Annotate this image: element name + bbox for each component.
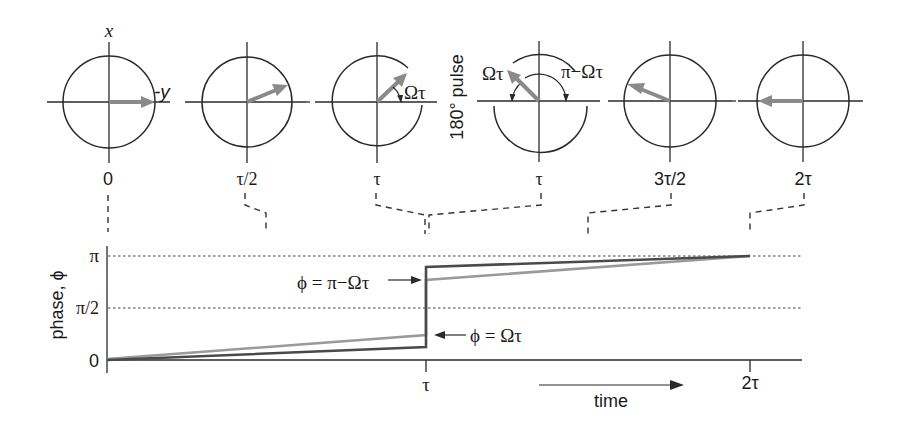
angle-label-pi-minus-omega-tau: π−Ωτ	[561, 61, 603, 82]
annotation-upper: ϕ = π−Ωτ	[297, 272, 370, 293]
angle-label-omega-tau: Ωτ	[404, 82, 426, 103]
snapshot-two-tau: 2τ	[738, 41, 863, 189]
snapshot-tau-half: τ/2	[185, 42, 306, 189]
time-label-tau-1: τ	[373, 169, 380, 189]
spin-echo-figure: x -y 0 τ/2 Ωτ τ 180° pulse	[0, 0, 903, 433]
xlabel: time	[594, 391, 628, 411]
phase-plot: π π/2 0 phase, ϕ τ 2τ time ϕ = π−Ωτ ϕ = …	[47, 245, 802, 411]
time-label-0: 0	[103, 169, 113, 189]
snapshot-tau-after: Ωτ π−Ωτ τ	[477, 41, 603, 189]
xtick-two-tau: 2τ	[741, 373, 758, 393]
time-label-three-tau-half: 3τ/2	[654, 169, 686, 189]
time-label-tau-2: τ	[535, 169, 542, 189]
snapshot-0: x -y 0	[47, 20, 171, 189]
ytick-0: 0	[89, 351, 99, 371]
snapshot-three-tau-half: 3τ/2	[608, 41, 732, 189]
time-arrow-head-icon	[670, 380, 684, 390]
magnetization-vector-icon	[141, 96, 155, 108]
angle-label-omega-tau-left: Ωτ	[482, 63, 504, 84]
xtick-tau: τ	[422, 374, 430, 395]
pulse-label: 180° pulse	[447, 54, 467, 139]
axis-label-neg-y: -y	[154, 81, 171, 102]
snapshot-tau-before: Ωτ τ	[315, 42, 437, 189]
magnetization-vector-icon	[627, 83, 645, 94]
time-label-two-tau: 2τ	[794, 169, 811, 189]
ylabel: phase, ϕ	[47, 270, 67, 339]
annotation-lower: ϕ = Ωτ	[470, 325, 522, 346]
ytick-pi-half: π/2	[76, 298, 99, 318]
ytick-pi: π	[89, 245, 99, 266]
magnetization-vector-icon	[758, 95, 772, 107]
axis-label-x: x	[104, 20, 114, 41]
time-label-tau-half: τ/2	[236, 169, 257, 189]
time-connectors	[108, 193, 804, 235]
snapshot-panel: x -y 0 τ/2 Ωτ τ 180° pulse	[47, 20, 863, 189]
